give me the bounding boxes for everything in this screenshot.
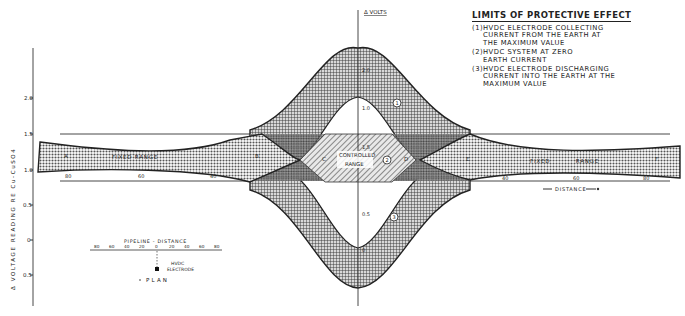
plan-tick-label: 20 xyxy=(139,244,145,249)
distance-tick-label: 80 xyxy=(65,173,71,179)
legend-item-number: (3) xyxy=(472,66,483,88)
center-tick-label: 0.5 xyxy=(362,211,370,217)
electrode-label: HVDC xyxy=(171,261,184,266)
y-tick-label: 0 xyxy=(27,237,31,243)
legend-item-number: (2) xyxy=(472,49,483,64)
point-label-d: D xyxy=(404,156,408,162)
plan-tick-label: 20 xyxy=(169,244,175,249)
curve-marker-3-label: 3 xyxy=(393,214,396,220)
distance-label: DISTANCE xyxy=(555,186,586,192)
center-tick-label: 2.0 xyxy=(362,67,370,73)
legend-item: (2) HVDC SYSTEM AT ZERO EARTH CURRENT xyxy=(472,49,682,64)
point-label-c: C xyxy=(322,156,326,162)
plan-tick-label: 40 xyxy=(124,244,130,249)
distance-tick-label: 60 xyxy=(138,173,144,179)
fixed-range-right-label: FIXED RANGE xyxy=(530,158,599,164)
y-tick-label: 0.5 xyxy=(23,272,32,278)
point-label-e: E xyxy=(466,156,470,162)
y-tick-label: 1.5 xyxy=(24,131,33,137)
distance-tick-label: 60 xyxy=(573,175,579,181)
y-axis-label: Δ VOLTAGE READING RE Cu-CuSO4 xyxy=(10,148,16,290)
legend-item-number: (1) xyxy=(472,25,483,47)
controlled-range-label: CONTROLLED xyxy=(339,152,375,158)
legend-item: (3) HVDC ELECTRODE DISCHARGING CURRENT I… xyxy=(472,66,682,88)
point-label-a: A xyxy=(64,153,68,159)
center-axis-label: Δ VOLTS xyxy=(364,9,387,15)
point-label-f: F xyxy=(655,156,658,162)
legend: LIMITS OF PROTECTIVE EFFECT (1) HVDC ELE… xyxy=(472,3,682,90)
plan-tick-label: 80 xyxy=(214,244,220,249)
legend-item-text: HVDC ELECTRODE DISCHARGING CURRENT INTO … xyxy=(483,66,615,88)
y-tick-label: 2.0 xyxy=(24,95,33,101)
controlled-range-label: RANGE xyxy=(345,161,364,167)
y-tick-label: 0.5 xyxy=(23,202,32,208)
center-tick-label: 0 xyxy=(362,247,365,253)
plan-inset: PIPELINE - DISTANCE 80 60 40 20 0 20 40 … xyxy=(90,239,222,283)
plan-tick-label: 60 xyxy=(109,244,115,249)
distance-tick-label: 40 xyxy=(502,175,508,181)
curve-marker-2-label: 2 xyxy=(386,157,389,163)
point-label-b: B xyxy=(255,153,259,159)
hvdc-electrode-icon xyxy=(155,267,159,271)
center-tick-label: 1.0 xyxy=(362,105,370,111)
plan-caption: PLAN xyxy=(146,277,169,283)
plan-tick-label: 60 xyxy=(199,244,205,249)
legend-item-text: HVDC ELECTRODE COLLECTING CURRENT FROM T… xyxy=(483,25,604,47)
plan-tick-label: 0 xyxy=(155,244,158,249)
legend-item: (1) HVDC ELECTRODE COLLECTING CURRENT FR… xyxy=(472,25,682,47)
plan-tick-label: 80 xyxy=(94,244,100,249)
fixed-range-right xyxy=(420,134,680,180)
legend-title: LIMITS OF PROTECTIVE EFFECT xyxy=(472,10,631,22)
y-tick-label: 1.0 xyxy=(24,167,33,173)
fixed-range-left xyxy=(38,134,300,182)
distance-tick-label: 40 xyxy=(210,173,216,179)
curve-marker-1-label: 1 xyxy=(396,100,399,106)
legend-item-text: HVDC SYSTEM AT ZERO EARTH CURRENT xyxy=(483,49,573,64)
center-tick-label: 1.5 xyxy=(362,144,370,150)
distance-tick-label: 80 xyxy=(643,175,649,181)
plan-tick-label: 40 xyxy=(184,244,190,249)
electrode-label: ELECTRODE xyxy=(167,267,194,272)
fixed-range-left-label: FIXED RANGE xyxy=(112,154,158,160)
